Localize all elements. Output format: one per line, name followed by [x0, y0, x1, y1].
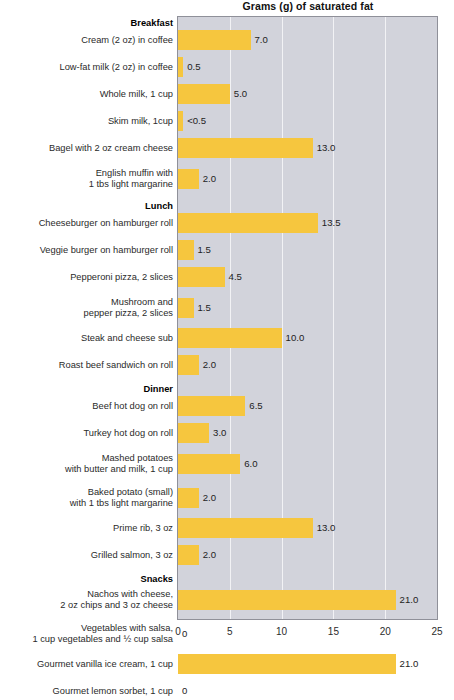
- category-label: Beef hot dog on roll: [0, 396, 173, 416]
- section-header-row: Breakfast: [0, 16, 454, 30]
- category-label: English muffin with 1 tbs light margarin…: [0, 168, 173, 190]
- category-label: Skim milk, 1cup: [0, 111, 173, 131]
- category-label: Prime rib, 3 oz: [0, 518, 173, 538]
- section-header-row: Dinner: [0, 382, 454, 396]
- bar: [178, 590, 396, 610]
- x-tick-label: 15: [328, 626, 339, 637]
- category-label: Low-fat milk (2 oz) in coffee: [0, 57, 173, 77]
- chart-row: Gourmet vanilla ice cream, 1 cup21.0: [0, 654, 454, 674]
- bar: [178, 138, 313, 158]
- bar: [178, 355, 199, 375]
- bar-value-label: 13.0: [313, 518, 336, 538]
- chart-row: Gourmet lemon sorbet, 1 cup0: [0, 681, 454, 700]
- chart-row: Roast beef sandwich on roll2.0: [0, 355, 454, 375]
- chart-row: Mashed potatoes with butter and milk, 1 …: [0, 450, 454, 477]
- category-label: Mushroom and pepper pizza, 2 slices: [0, 297, 173, 319]
- chart-row: Cream (2 oz) in coffee7.0: [0, 30, 454, 50]
- category-label: Steak and cheese sub: [0, 328, 173, 348]
- bar-value-label: 1.5: [194, 240, 211, 260]
- chart-row: Baked potato (small) with 1 tbs light ma…: [0, 484, 454, 511]
- bar: [178, 328, 282, 348]
- chart-row: Turkey hot dog on roll3.0: [0, 423, 454, 443]
- chart-row: Veggie burger on hamburger roll1.5: [0, 240, 454, 260]
- bar: [178, 454, 240, 474]
- bar-value-label: 6.0: [240, 454, 257, 474]
- category-label: Pepperoni pizza, 2 slices: [0, 267, 173, 287]
- bar: [178, 30, 251, 50]
- category-label: Bagel with 2 oz cream cheese: [0, 138, 173, 158]
- bar: [178, 84, 230, 104]
- bar: [178, 298, 194, 318]
- chart-row: Pepperoni pizza, 2 slices4.5: [0, 267, 454, 287]
- category-label: Turkey hot dog on roll: [0, 423, 173, 443]
- bar: [178, 169, 199, 189]
- bar: [178, 518, 313, 538]
- section-label: Snacks: [0, 572, 173, 586]
- bar-value-label: 4.5: [225, 267, 242, 287]
- bar-value-label: 21.0: [396, 654, 419, 674]
- category-label: Roast beef sandwich on roll: [0, 355, 173, 375]
- section-header-row: Snacks: [0, 572, 454, 586]
- bar-value-label: 7.0: [251, 30, 268, 50]
- bar-value-label: 5.0: [230, 84, 247, 104]
- bar-value-label: 21.0: [396, 590, 419, 610]
- category-label: Gourmet lemon sorbet, 1 cup: [0, 681, 173, 700]
- chart-row: Mushroom and pepper pizza, 2 slices1.5: [0, 294, 454, 321]
- chart-row: Bagel with 2 oz cream cheese13.0: [0, 138, 454, 158]
- bar-value-label: 6.5: [245, 396, 262, 416]
- bar-value-label: 2.0: [199, 355, 216, 375]
- chart-row: Skim milk, 1cup<0.5: [0, 111, 454, 131]
- chart-row: Prime rib, 3 oz13.0: [0, 518, 454, 538]
- bar-value-label: 13.5: [318, 213, 341, 233]
- x-tick-label: 10: [276, 626, 287, 637]
- x-tick-label: 25: [431, 626, 442, 637]
- bar: [178, 545, 199, 565]
- bar: [178, 213, 318, 233]
- bar: [178, 267, 225, 287]
- chart-row: Grilled salmon, 3 oz2.0: [0, 545, 454, 565]
- bar-value-label: 0.5: [183, 57, 200, 77]
- category-label: Veggie burger on hamburger roll: [0, 240, 173, 260]
- bar-value-label: <0.5: [183, 111, 206, 131]
- bar-value-label: 2.0: [199, 545, 216, 565]
- section-header-row: Lunch: [0, 199, 454, 213]
- bar-value-label: 10.0: [282, 328, 305, 348]
- section-label: Dinner: [0, 382, 173, 396]
- chart-row: Cheeseburger on hamburger roll13.5: [0, 213, 454, 233]
- category-label: Grilled salmon, 3 oz: [0, 545, 173, 565]
- chart-row: Steak and cheese sub10.0: [0, 328, 454, 348]
- bar-value-label: 1.5: [194, 298, 211, 318]
- category-label: Whole milk, 1 cup: [0, 84, 173, 104]
- chart-row: English muffin with 1 tbs light margarin…: [0, 165, 454, 192]
- bar: [178, 240, 194, 260]
- bar: [178, 396, 245, 416]
- category-label: Mashed potatoes with butter and milk, 1 …: [0, 453, 173, 475]
- category-label: Baked potato (small) with 1 tbs light ma…: [0, 487, 173, 509]
- x-tick-label: 20: [380, 626, 391, 637]
- section-label: Lunch: [0, 199, 173, 213]
- bar-value-label: 2.0: [199, 488, 216, 508]
- bar-value-label: 13.0: [313, 138, 336, 158]
- bar-value-label: 0: [178, 681, 187, 700]
- chart-row: Whole milk, 1 cup5.0: [0, 84, 454, 104]
- chart-title: Grams (g) of saturated fat: [177, 0, 439, 12]
- chart-row: Beef hot dog on roll6.5: [0, 396, 454, 416]
- bar: [178, 423, 209, 443]
- x-tick-label: 5: [227, 626, 233, 637]
- x-tick-label: 0: [175, 626, 181, 637]
- category-label: Cream (2 oz) in coffee: [0, 30, 173, 50]
- bar-value-label: 2.0: [199, 169, 216, 189]
- chart-rows: BreakfastCream (2 oz) in coffee7.0Low-fa…: [0, 16, 454, 620]
- category-label: Nachos with cheese, 2 oz chips and 3 oz …: [0, 589, 173, 611]
- chart-row: Low-fat milk (2 oz) in coffee0.5: [0, 57, 454, 77]
- bar: [178, 654, 396, 674]
- section-label: Breakfast: [0, 16, 173, 30]
- x-axis: 0510152025: [0, 622, 454, 646]
- category-label: Gourmet vanilla ice cream, 1 cup: [0, 654, 173, 674]
- category-label: Cheeseburger on hamburger roll: [0, 213, 173, 233]
- bar-value-label: 3.0: [209, 423, 226, 443]
- bar: [178, 488, 199, 508]
- chart-row: Nachos with cheese, 2 oz chips and 3 oz …: [0, 586, 454, 613]
